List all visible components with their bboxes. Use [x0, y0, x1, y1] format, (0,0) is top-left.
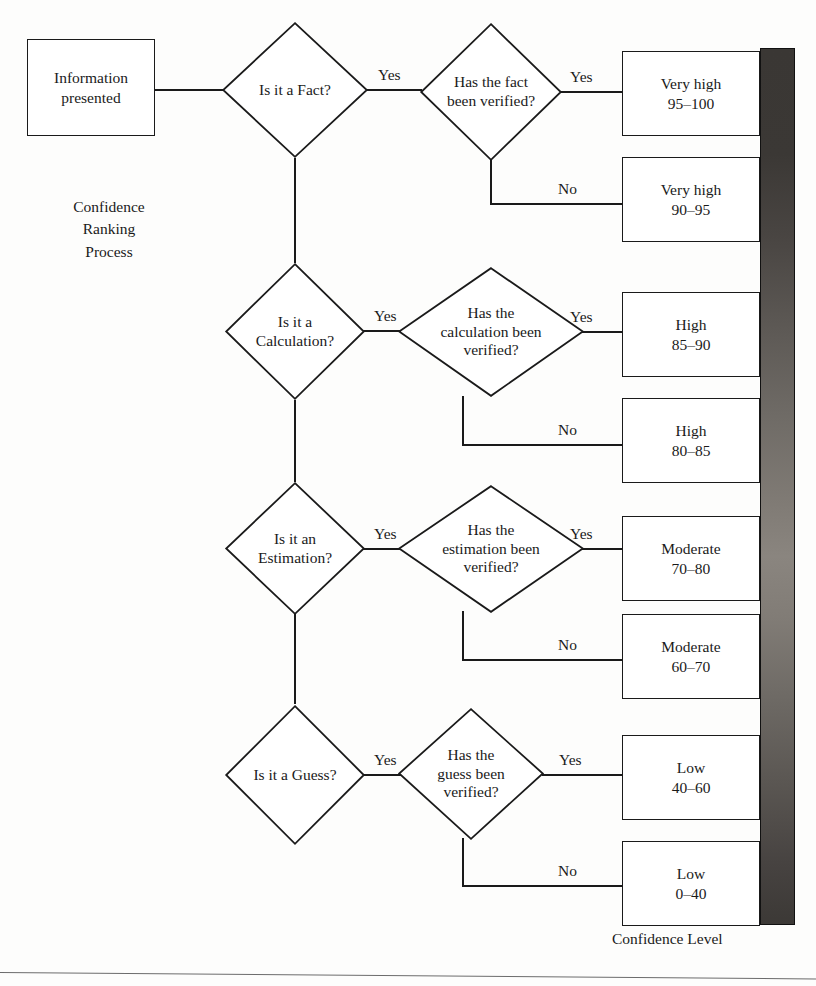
- edge-calculation-to-estimation: [294, 400, 296, 482]
- result-range-2: 90–95: [661, 200, 722, 219]
- result-range-4: 80–85: [672, 441, 711, 460]
- edge-guess-verified-no-vertical: [462, 838, 464, 886]
- edge-label-estimation-yes: Yes: [374, 525, 397, 543]
- fact-verify-line-2: been verified?: [447, 92, 535, 111]
- result-range-8: 0–40: [676, 884, 707, 903]
- result-label-6: Moderate: [661, 637, 720, 656]
- calculation-question-line-1: Is it a: [256, 313, 334, 332]
- fact-verify-line-1: Has the fact: [447, 73, 535, 92]
- result-very-high-90-95: Very high 90–95: [622, 157, 760, 242]
- result-range-1: 95–100: [661, 94, 722, 113]
- result-high-80-85: High 80–85: [622, 398, 760, 483]
- estimation-question-line-1: Is it an: [258, 530, 332, 549]
- decision-has-the-guess-been-verified: Has the guess been verified?: [398, 708, 544, 840]
- estimation-verify-line-3: verified?: [442, 558, 540, 577]
- estimation-question-line-2: Estimation?: [258, 549, 332, 568]
- decision-is-it-a-fact: Is it a Fact?: [222, 22, 368, 158]
- edge-estimation-verified-no-vertical: [462, 611, 464, 660]
- fact-question-line-1: Is it a Fact?: [259, 81, 331, 100]
- node-information-presented: Information presented: [27, 39, 155, 136]
- edge-label-guess-yes: Yes: [374, 751, 397, 769]
- result-very-high-95-100: Very high 95–100: [622, 51, 760, 136]
- edge-fact-verified-no-vertical: [490, 160, 492, 204]
- estimation-verify-line-1: Has the: [442, 521, 540, 540]
- process-title: Confidence Ranking Process: [44, 196, 174, 263]
- edge-fact-to-calculation: [294, 158, 296, 263]
- edge-fact-verified-yes: [560, 91, 623, 93]
- process-title-line-3: Process: [44, 241, 174, 263]
- decision-is-it-an-estimation: Is it an Estimation?: [225, 482, 365, 615]
- decision-is-it-a-guess: Is it a Guess?: [225, 705, 365, 845]
- edge-label-fact-yes: Yes: [378, 66, 401, 84]
- result-range-6: 60–70: [661, 657, 720, 676]
- edge-label-calculation-yes: Yes: [374, 307, 397, 325]
- process-title-line-1: Confidence: [44, 196, 174, 218]
- result-moderate-70-80: Moderate 70–80: [622, 516, 760, 601]
- edge-calculation-verified-no-vertical: [462, 396, 464, 445]
- result-range-7: 40–60: [672, 778, 711, 797]
- result-label-5: Moderate: [661, 539, 720, 558]
- edge-calculation-verified-yes: [582, 331, 623, 333]
- decision-has-the-calculation-been-verified: Has the calculation been verified?: [398, 267, 584, 397]
- result-label-2: Very high: [661, 180, 722, 199]
- edge-label-calculation-verified-yes: Yes: [570, 308, 593, 326]
- start-node-line-2: presented: [54, 88, 128, 107]
- guess-verify-line-1: Has the: [437, 746, 505, 765]
- process-title-line-2: Ranking: [44, 218, 174, 240]
- result-label-7: Low: [672, 758, 711, 777]
- calculation-verify-line-3: verified?: [440, 341, 541, 360]
- decision-is-it-a-calculation: Is it a Calculation?: [225, 263, 365, 400]
- diagram-canvas: Confidence Ranking Process Confidence Le…: [0, 0, 816, 986]
- page-footer-rule: [0, 972, 816, 980]
- edge-label-guess-verified-no: No: [558, 862, 577, 880]
- result-range-3: 85–90: [672, 335, 711, 354]
- calculation-verify-line-1: Has the: [440, 304, 541, 323]
- edge-estimation-verified-yes: [582, 548, 623, 550]
- result-low-40-60: Low 40–60: [622, 735, 760, 820]
- edge-label-estimation-verified-no: No: [558, 636, 577, 654]
- edge-estimation-to-guess: [294, 612, 296, 704]
- decision-has-the-fact-been-verified: Has the fact been verified?: [420, 23, 562, 161]
- edge-label-calculation-verified-no: No: [558, 421, 577, 439]
- result-label-4: High: [672, 421, 711, 440]
- guess-verify-line-2: guess been: [437, 765, 505, 784]
- edge-estimation-verified-no-horizontal: [462, 659, 623, 661]
- result-high-85-90: High 85–90: [622, 292, 760, 377]
- edge-fact-yes: [366, 89, 422, 91]
- result-low-0-40: Low 0–40: [622, 841, 760, 926]
- result-label-3: High: [672, 315, 711, 334]
- result-label-1: Very high: [661, 74, 722, 93]
- estimation-verify-line-2: estimation been: [442, 540, 540, 559]
- calculation-question-line-2: Calculation?: [256, 332, 334, 351]
- guess-question-line-1: Is it a Guess?: [253, 766, 336, 785]
- edge-guess-verified-no-horizontal: [462, 885, 623, 887]
- confidence-gradient-bar: [760, 48, 795, 925]
- confidence-level-caption: Confidence Level: [612, 930, 723, 948]
- edge-fact-verified-no-horizontal: [490, 203, 623, 205]
- edge-label-guess-verified-yes: Yes: [559, 751, 582, 769]
- edge-label-estimation-verified-yes: Yes: [570, 525, 593, 543]
- result-moderate-60-70: Moderate 60–70: [622, 614, 760, 699]
- edge-calculation-verified-no-horizontal: [462, 444, 623, 446]
- edge-start-to-fact: [155, 89, 223, 91]
- edge-label-fact-verified-yes: Yes: [570, 68, 593, 86]
- edge-label-fact-verified-no: No: [558, 180, 577, 198]
- calculation-verify-line-2: calculation been: [440, 323, 541, 342]
- guess-verify-line-3: verified?: [437, 783, 505, 802]
- decision-has-the-estimation-been-verified: Has the estimation been verified?: [398, 485, 584, 613]
- result-range-5: 70–80: [661, 559, 720, 578]
- edge-guess-verified-yes: [542, 774, 623, 776]
- start-node-line-1: Information: [54, 68, 128, 87]
- result-label-8: Low: [676, 864, 707, 883]
